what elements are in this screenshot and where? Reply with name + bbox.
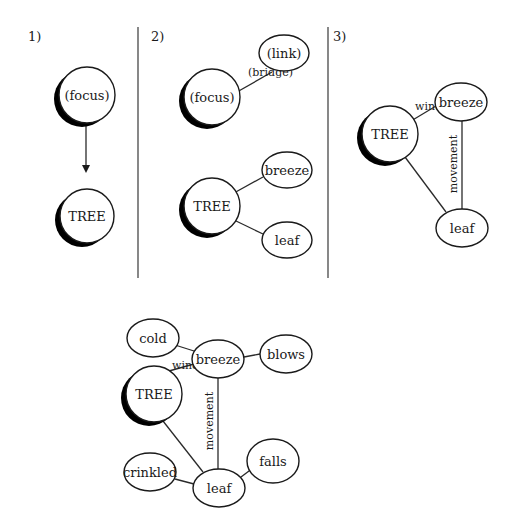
node-label: breeze — [196, 352, 241, 367]
node-p1-focus: (focus) — [54, 67, 115, 127]
p2-tree-breeze-edge — [234, 177, 263, 193]
node-label: leaf — [207, 481, 233, 496]
node-label: breeze — [439, 95, 484, 110]
node-p3-leaf: leaf — [436, 209, 488, 247]
node-p1-tree: TREE — [55, 189, 114, 247]
node-p4-leaf: leaf — [193, 469, 245, 507]
node-label: blows — [267, 347, 305, 362]
node-label: TREE — [135, 387, 172, 402]
p4-movement-edge: movement — [203, 378, 218, 469]
edge-line — [244, 354, 260, 357]
node-p4-tree: TREE — [121, 366, 182, 426]
p4-crinkled-leaf-edge — [175, 479, 194, 484]
p3-movement-edge: movement — [447, 121, 462, 209]
node-label: cold — [139, 331, 167, 346]
panel-1-label: 1) — [28, 29, 41, 44]
node-label: crinkled — [123, 465, 177, 480]
node-label: TREE — [68, 209, 105, 224]
edge-line — [175, 345, 194, 351]
p4-cold-breeze-edge — [175, 345, 194, 351]
node-label: TREE — [193, 199, 230, 214]
panel-3-label: 3) — [333, 29, 346, 44]
node-label: (link) — [267, 46, 302, 61]
node-p2-tree: TREE — [179, 178, 240, 238]
node-p2-focus: (focus) — [179, 69, 240, 129]
node-p4-blows: blows — [260, 335, 312, 373]
node-label: breeze — [265, 163, 310, 178]
concept-map-diagram: 1)2)3) (bridge)windmovementwindmovement … — [0, 0, 517, 527]
node-p4-cold: cold — [127, 319, 179, 357]
node-label: TREE — [371, 127, 408, 142]
node-p4-breeze: breeze — [192, 340, 244, 378]
node-p2-link: (link) — [259, 35, 309, 71]
edge-label: movement — [447, 134, 460, 193]
node-p4-crinkled: crinkled — [123, 453, 177, 491]
edge-line — [234, 177, 263, 193]
edge-line — [234, 220, 263, 234]
edge-label: movement — [203, 391, 216, 450]
node-p2-leaf: leaf — [262, 222, 312, 258]
node-label: leaf — [450, 221, 476, 236]
p4-breeze-blows-edge — [244, 354, 260, 357]
edge-line — [175, 479, 194, 484]
panel-2-label: 2) — [151, 29, 164, 44]
node-label: (focus) — [64, 88, 109, 103]
node-p3-tree: TREE — [357, 106, 418, 166]
node-p3-breeze: breeze — [435, 83, 487, 121]
node-label: leaf — [275, 233, 301, 248]
node-label: (focus) — [189, 90, 234, 105]
edge-line — [405, 157, 446, 212]
p2-tree-leaf-edge — [234, 220, 263, 234]
p3-tree-leaf-edge — [405, 157, 446, 212]
node-p2-breeze: breeze — [262, 152, 312, 188]
node-label: falls — [259, 454, 287, 469]
node-p4-falls: falls — [247, 439, 299, 483]
